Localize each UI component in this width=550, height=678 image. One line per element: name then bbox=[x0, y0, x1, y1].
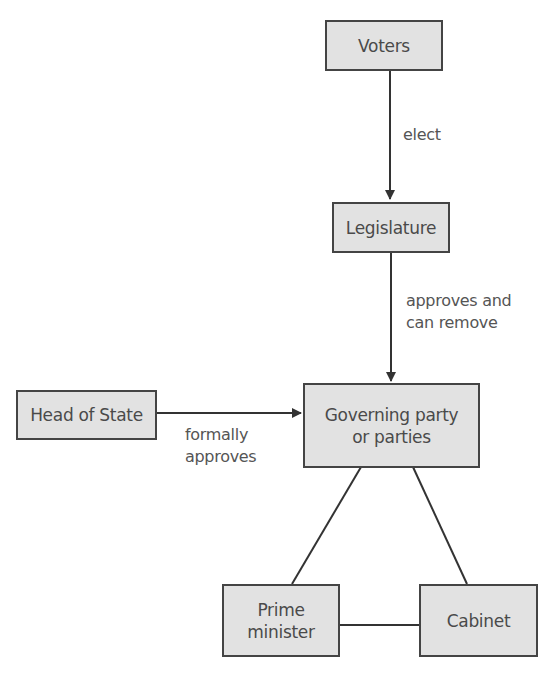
node-head-of-state: Head of State bbox=[16, 390, 157, 440]
node-pm-line2: minister bbox=[247, 621, 314, 643]
node-cabinet: Cabinet bbox=[419, 584, 538, 657]
edge-label-line2: approves bbox=[185, 446, 256, 468]
line-governing-to-pm bbox=[292, 467, 361, 584]
edge-label-line1: approves and bbox=[406, 290, 511, 312]
node-legislature: Legislature bbox=[332, 202, 450, 253]
node-voters-label: Voters bbox=[358, 35, 410, 57]
node-prime-minister: Prime minister bbox=[222, 584, 340, 657]
edge-label-line1: formally bbox=[185, 424, 256, 446]
diagram-edges bbox=[0, 0, 550, 678]
node-cabinet-label: Cabinet bbox=[447, 610, 511, 632]
node-voters: Voters bbox=[325, 20, 443, 71]
edge-label-elect: elect bbox=[403, 124, 441, 146]
node-legislature-label: Legislature bbox=[346, 217, 436, 239]
edge-label-formally-approves: formally approves bbox=[185, 424, 256, 468]
node-head-of-state-label: Head of State bbox=[30, 404, 143, 426]
node-pm-line1: Prime bbox=[257, 599, 304, 621]
node-governing-line2: or parties bbox=[352, 426, 431, 448]
edge-label-line2: can remove bbox=[406, 312, 511, 334]
node-governing-line1: Governing party bbox=[325, 404, 459, 426]
node-governing-party: Governing party or parties bbox=[303, 383, 480, 468]
edge-label-approves-and-can-remove: approves and can remove bbox=[406, 290, 511, 334]
line-governing-to-cabinet bbox=[413, 467, 467, 584]
